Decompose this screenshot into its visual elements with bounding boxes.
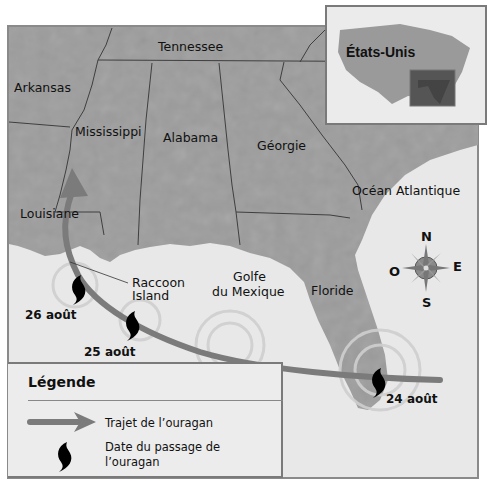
state-label-arkansas: Arkansas: [14, 82, 71, 95]
gulf-label-line1: Golfe: [233, 271, 266, 284]
state-label-floride: Floride: [311, 285, 354, 298]
date-label-26: 26 août: [25, 309, 77, 321]
legend: Légende Trajet de l’ouragan Date du pass…: [8, 362, 283, 478]
legend-track-label: Trajet de l’ouragan: [105, 416, 213, 430]
date-label-24: 24 août: [386, 393, 438, 405]
raccoon-label-line2: Island: [132, 290, 169, 303]
inset-map: [326, 6, 486, 124]
state-label-alabama: Alabama: [163, 132, 218, 145]
state-label-tennessee: Tennessee: [158, 41, 223, 54]
legend-title: Légende: [28, 374, 95, 390]
hurricane-icon: [54, 440, 76, 474]
inset-title: États-Unis: [346, 44, 415, 60]
arrow-icon: [26, 410, 98, 434]
gulf-label-line2: du Mexique: [212, 286, 285, 299]
state-label-louisiane: Louisiane: [20, 208, 79, 221]
compass-west: O: [389, 265, 400, 278]
state-label-georgie: Géorgie: [257, 140, 306, 153]
compass-south: S: [422, 296, 431, 309]
legend-divider: [28, 400, 283, 401]
ocean-label: Océan Atlantique: [352, 185, 460, 198]
legend-date-label: Date du passage de l’ouragan: [105, 440, 225, 470]
date-label-25: 25 août: [84, 346, 136, 358]
compass-north: N: [421, 230, 432, 243]
state-label-mississippi: Mississippi: [75, 126, 142, 139]
compass-east: E: [453, 260, 462, 273]
